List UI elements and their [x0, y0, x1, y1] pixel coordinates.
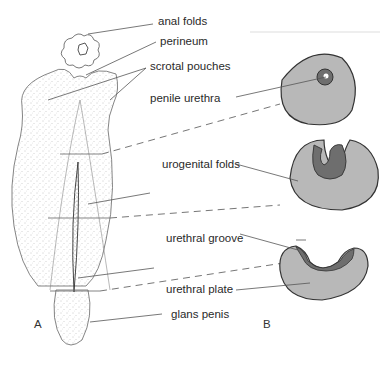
body-outline	[12, 69, 118, 286]
cross-section-1	[281, 54, 355, 125]
cross-section-2	[290, 140, 378, 210]
label-perineum: perineum	[160, 35, 208, 48]
label-urogenital-folds: urogenital folds	[162, 158, 240, 171]
label-penile-urethra: penile urethra	[150, 92, 220, 105]
label-urethral-plate: urethral plate	[166, 283, 233, 296]
label-scrotal-pouches: scrotal pouches	[150, 60, 231, 73]
anal-folds-shape	[61, 34, 99, 68]
label-urethral-groove: urethral groove	[166, 232, 243, 245]
section-connectors	[100, 104, 290, 291]
cross-section-3	[280, 246, 368, 300]
panel-label-a: A	[34, 318, 42, 330]
label-anal-folds: anal folds	[158, 15, 207, 28]
panel-label-b: B	[263, 318, 271, 330]
external-genitalia-drawing	[12, 34, 118, 345]
label-glans-penis: glans penis	[171, 308, 229, 321]
glans-shape	[54, 290, 90, 345]
